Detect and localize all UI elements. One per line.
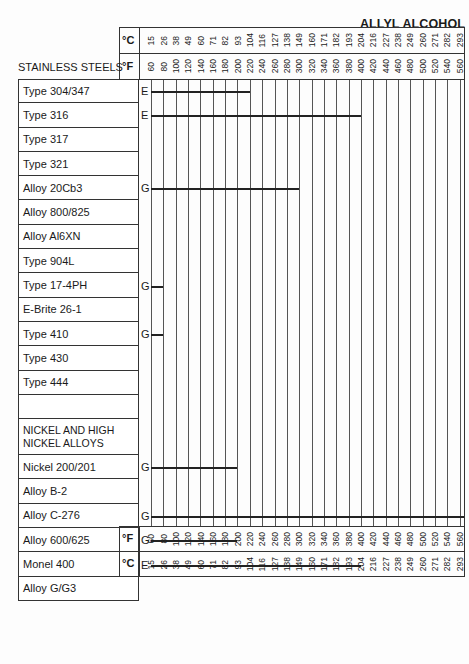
fahrenheit-ticks-top: 6080100120140160180200220240260280300320… <box>145 55 466 78</box>
fahrenheit-tick: 380 <box>343 528 355 550</box>
tick-label: 140 <box>196 59 206 73</box>
gridline <box>361 80 362 526</box>
gridline <box>299 80 300 526</box>
fahrenheit-tick: 340 <box>318 528 330 550</box>
fahrenheit-tick: 460 <box>392 528 404 550</box>
tick-label: 120 <box>183 59 193 73</box>
tick-label: 100 <box>171 532 181 546</box>
tick-label: 120 <box>183 532 193 546</box>
tick-label: 182 <box>331 33 341 47</box>
fahrenheit-tick: 60 <box>145 528 157 550</box>
tick-label: 300 <box>294 532 304 546</box>
celsius-tick: 249 <box>404 553 416 576</box>
fahrenheit-tick: 240 <box>256 55 268 78</box>
tick-label: 160 <box>307 557 317 571</box>
tick-label: 200 <box>233 59 243 73</box>
tick-label: 38 <box>171 560 181 569</box>
fahrenheit-tick: 180 <box>219 55 231 78</box>
material-row: Type 904L <box>18 249 139 273</box>
tick-label: 460 <box>393 532 403 546</box>
celsius-tick: 160 <box>305 29 317 52</box>
celsius-tick: 293 <box>454 553 466 576</box>
celsius-tick: 38 <box>170 553 182 576</box>
fahrenheit-tick: 560 <box>454 55 466 78</box>
bottom-unit-divider <box>119 551 465 552</box>
tick-label: 540 <box>442 532 452 546</box>
fahrenheit-tick: 520 <box>429 55 441 78</box>
tick-label: 82 <box>220 560 230 569</box>
section-label-stainless: STAINLESS STEELS <box>18 61 123 73</box>
tick-label: 260 <box>418 33 428 47</box>
top-unit-divider <box>119 53 465 54</box>
fahrenheit-tick: 420 <box>367 55 379 78</box>
tick-label: 49 <box>183 560 193 569</box>
celsius-tick: 204 <box>355 29 367 52</box>
tick-label: 380 <box>344 59 354 73</box>
tick-label: 280 <box>282 532 292 546</box>
tick-label: 60 <box>146 62 156 71</box>
rating-bar <box>151 286 163 288</box>
material-row: Alloy C-276 <box>18 504 139 528</box>
celsius-tick: 260 <box>417 29 429 52</box>
tick-label: 71 <box>208 36 218 45</box>
tick-label: 193 <box>344 33 354 47</box>
celsius-tick: 282 <box>441 553 453 576</box>
celsius-tick: 93 <box>231 553 243 576</box>
gridline <box>151 80 152 526</box>
tick-label: 80 <box>159 534 169 543</box>
fahrenheit-tick: 80 <box>157 55 169 78</box>
rating-label: E <box>141 85 148 97</box>
tick-label: 82 <box>220 36 230 45</box>
gridline <box>336 80 337 526</box>
material-row: Type 17-4PH <box>18 273 139 297</box>
gridline <box>386 80 387 526</box>
celsius-tick: 260 <box>417 553 429 576</box>
material-row: Alloy 20Cb3 <box>18 176 139 200</box>
fahrenheit-tick: 440 <box>380 55 392 78</box>
tick-label: 271 <box>430 33 440 47</box>
tick-label: 282 <box>442 557 452 571</box>
fahrenheit-tick: 120 <box>182 55 194 78</box>
tick-label: 140 <box>196 532 206 546</box>
celsius-tick: 204 <box>355 553 367 576</box>
tick-label: 204 <box>356 557 366 571</box>
celsius-tick: 49 <box>182 29 194 52</box>
celsius-ticks-bottom: 1526384960718293104116127138149160171182… <box>145 553 466 576</box>
material-row: Type 317 <box>18 128 139 152</box>
material-row: Type 410 <box>18 322 139 346</box>
celsius-tick: 216 <box>367 553 379 576</box>
tick-label: 160 <box>208 532 218 546</box>
tick-label: 180 <box>220 59 230 73</box>
celsius-unit-top: °C <box>122 34 134 46</box>
celsius-tick: 60 <box>194 553 206 576</box>
celsius-tick: 282 <box>441 29 453 52</box>
celsius-tick: 249 <box>404 29 416 52</box>
celsius-tick: 104 <box>244 553 256 576</box>
tick-label: 240 <box>257 59 267 73</box>
rating-label: G <box>141 280 150 292</box>
gridline <box>262 80 263 526</box>
tick-label: 500 <box>418 532 428 546</box>
tick-label: 227 <box>381 557 391 571</box>
material-row: Alloy 800/825 <box>18 200 139 224</box>
tick-label: 293 <box>455 557 465 571</box>
tick-label: 460 <box>393 59 403 73</box>
tick-label: 216 <box>368 33 378 47</box>
fahrenheit-ticks-bottom: 6080100120140160180200220240260280300320… <box>145 528 466 550</box>
celsius-tick: 171 <box>318 29 330 52</box>
rating-label: G <box>141 461 150 473</box>
tick-label: 149 <box>294 33 304 47</box>
tick-label: 60 <box>196 560 206 569</box>
tick-label: 280 <box>282 59 292 73</box>
tick-label: 240 <box>257 532 267 546</box>
tick-label: 100 <box>171 59 181 73</box>
fahrenheit-tick: 140 <box>194 528 206 550</box>
material-row: Type 304/347 <box>18 79 139 103</box>
material-list: Type 304/347Type 316Type 317Type 321Allo… <box>18 79 139 601</box>
fahrenheit-tick: 220 <box>244 528 256 550</box>
celsius-tick: 26 <box>157 29 169 52</box>
tick-label: 116 <box>257 34 267 48</box>
tick-label: 320 <box>307 532 317 546</box>
celsius-tick: 38 <box>170 29 182 52</box>
fahrenheit-tick: 440 <box>380 528 392 550</box>
